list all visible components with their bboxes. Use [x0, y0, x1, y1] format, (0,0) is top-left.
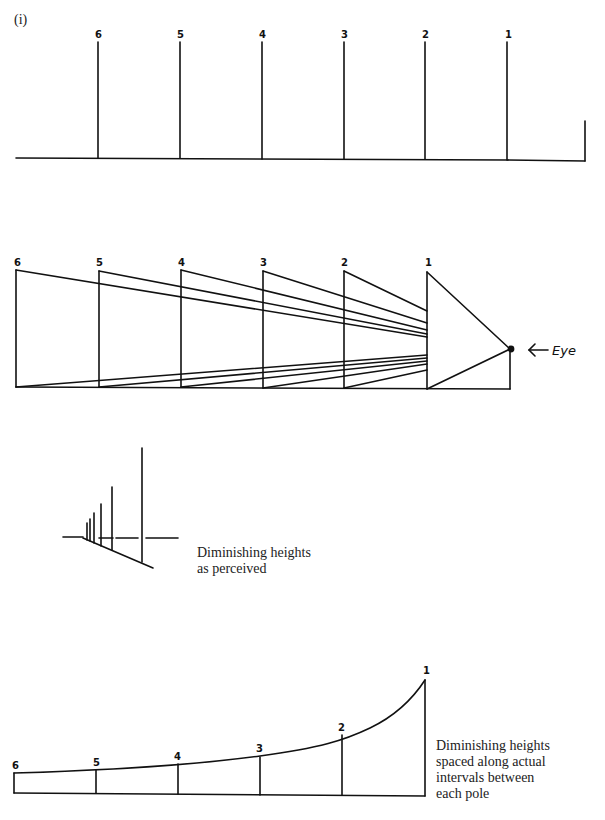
pole-label: 4 [174, 751, 181, 762]
sight-line-top-4 [181, 270, 427, 330]
eye-label: Eye [552, 343, 576, 358]
pole-label: 1 [425, 257, 432, 268]
labels-panel-1: 6 5 4 3 2 1 [95, 29, 512, 40]
pole-label: 4 [178, 257, 185, 268]
sight-line-top-1 [427, 272, 510, 349]
pole-label: 4 [259, 29, 266, 40]
pole-label: 3 [256, 743, 263, 754]
sight-line-bottom-1 [427, 349, 510, 389]
pole-label: 6 [14, 257, 21, 268]
pole-label: 5 [96, 257, 103, 268]
pole-label: 2 [341, 257, 348, 268]
labels-panel-4: 6 5 4 3 2 1 [12, 665, 430, 771]
panel-perceived [63, 448, 178, 568]
pole-label: 1 [505, 29, 512, 40]
caption-perceived: Diminishing heights as perceived [197, 545, 311, 577]
pole-label: 5 [177, 29, 184, 40]
diminishing-height-curve [14, 680, 425, 773]
panel-actual-intervals [14, 680, 425, 796]
pole-label: 1 [423, 665, 430, 676]
pole-label: 6 [95, 29, 102, 40]
panel-poles-elevation [16, 42, 585, 161]
caption-actual-intervals: Diminishing heights spaced along actual … [436, 738, 550, 802]
ground-line-end [508, 160, 585, 161]
pole-label: 3 [260, 257, 267, 268]
ground-line [14, 793, 425, 796]
pole-label: 3 [341, 29, 348, 40]
sight-line-top-2 [344, 271, 427, 311]
panel-sight-lines [16, 270, 548, 389]
eye-point [508, 346, 513, 351]
sight-line-top-3 [263, 271, 427, 323]
pole-label: 2 [338, 722, 345, 733]
perspective-diagram: 6 5 4 3 2 1 6 5 4 3 2 1 Eye 6 5 4 3 2 1 [0, 0, 605, 820]
pole-label: 2 [422, 29, 429, 40]
sight-line-bottom-2 [344, 370, 427, 388]
pole-label: 5 [93, 757, 100, 768]
pole-label: 6 [12, 760, 19, 771]
